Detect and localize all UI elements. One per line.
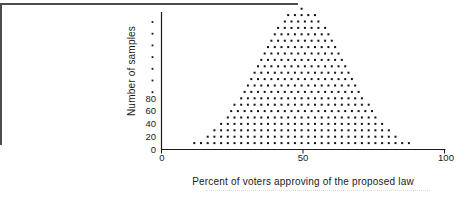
faint-dotted-artifact-line [206, 190, 430, 191]
x-tick-label-100: 100 [429, 153, 463, 163]
y-tick-label-20: 20 [126, 132, 156, 142]
y-tick-label-60: 60 [126, 106, 156, 116]
x-axis-title: Percent of voters approving of the propo… [192, 176, 414, 187]
sampling-distribution-dotplot-figure: Number of samples 80 60 40 20 0 0 50 100… [0, 0, 464, 198]
y-tick-label-40: 40 [126, 119, 156, 129]
x-tick-label-0: 0 [145, 153, 179, 163]
dotplot-canvas [0, 0, 464, 198]
y-tick-label-80: 80 [126, 94, 156, 104]
x-tick-label-50: 50 [286, 153, 320, 163]
